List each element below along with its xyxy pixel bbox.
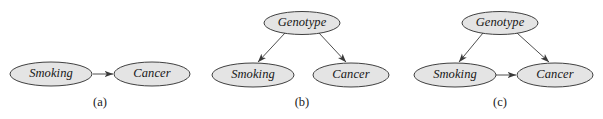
node-cancer[interactable]: Cancer (313, 63, 389, 87)
panel-caption-a: (a) (93, 95, 107, 109)
panels-group: SmokingCancer(a)GenotypeSmokingCancer(b)… (10, 12, 593, 109)
panel-b: GenotypeSmokingCancer(b) (212, 12, 389, 109)
node-genotype[interactable]: Genotype (462, 12, 538, 35)
node-label-cancer: Cancer (133, 66, 170, 80)
panel-a: SmokingCancer(a) (10, 62, 190, 109)
node-smoking[interactable]: Smoking (10, 62, 92, 86)
node-label-smoking: Smoking (433, 67, 477, 81)
figure-canvas: SmokingCancer(a)GenotypeSmokingCancer(b)… (0, 0, 603, 119)
node-label-smoking: Smoking (231, 67, 275, 81)
node-cancer[interactable]: Cancer (114, 62, 190, 86)
edge-genotype-to-cancer (319, 33, 346, 62)
node-label-cancer: Cancer (536, 67, 573, 81)
node-genotype[interactable]: Genotype (264, 12, 340, 35)
panel-caption-c: (c) (493, 95, 507, 109)
panel-caption-b: (b) (295, 95, 310, 109)
node-label-genotype: Genotype (278, 15, 327, 29)
edge-genotype-to-smoking (258, 33, 285, 62)
node-smoking[interactable]: Smoking (212, 63, 294, 87)
panel-c: GenotypeSmokingCancer(c) (414, 12, 593, 109)
node-label-smoking: Smoking (29, 66, 73, 80)
causal-dag-figure: SmokingCancer(a)GenotypeSmokingCancer(b)… (0, 0, 603, 119)
node-label-genotype: Genotype (476, 15, 525, 29)
node-cancer[interactable]: Cancer (517, 63, 593, 87)
edge-genotype-to-cancer (517, 33, 549, 62)
node-label-cancer: Cancer (332, 67, 369, 81)
edge-genotype-to-smoking (459, 33, 483, 62)
node-smoking[interactable]: Smoking (414, 63, 496, 87)
